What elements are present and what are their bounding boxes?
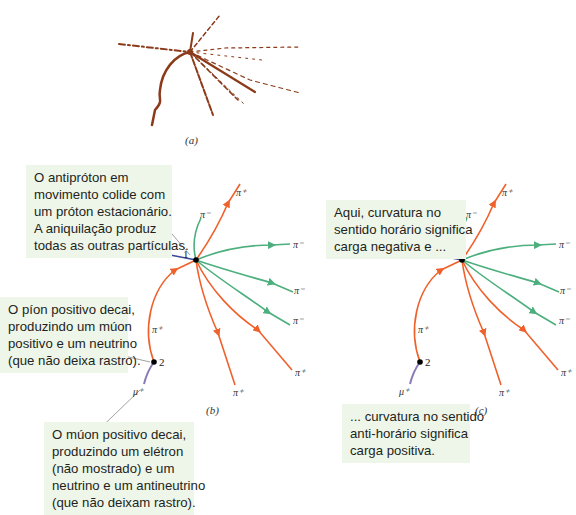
callout-annihilation: O antipróton em movimento colide com um … [26,165,172,258]
label-pi-plus: π⁺ [236,187,247,198]
caption-b: (b) [206,404,219,416]
label-pi-plus: π⁺ [233,387,244,398]
label-mu-plus: μ⁺ [132,386,144,397]
vertex-2-b: 2 [159,356,165,368]
label-pi-minus: π⁻ [560,285,571,296]
callout-pion-decay: O píon positivo decai, produzindo um múo… [0,297,128,373]
label-pi-plus: π⁺ [502,187,513,198]
label-pi-plus: π⁺ [561,367,572,378]
callout-clockwise: Aqui, curvatura no sentido horário signi… [326,200,466,259]
label-pi-minus: π⁻ [200,209,211,220]
label-pi-minus: π⁻ [293,239,304,250]
vertex-2-c: 2 [425,356,431,368]
callout-muon-decay: O múon positivo decai, produzindo um elé… [44,422,194,515]
label-pi-plus: π⁺ [418,324,429,335]
label-pi-minus: π⁻ [293,315,304,326]
label-pi-minus: π⁻ [559,239,570,250]
label-pi-minus: π⁻ [294,285,305,296]
callout-counterclockwise: ... curvatura no sentido anti-horário si… [342,404,470,463]
caption-c: (c) [475,404,487,416]
label-pi-minus: π⁻ [466,209,477,220]
label-pi-minus: π⁻ [559,315,570,326]
label-pi-plus: π⁺ [152,324,163,335]
label-mu-plus: μ⁺ [398,386,410,397]
label-pi-plus: π⁺ [295,367,306,378]
label-pi-plus: π⁺ [499,387,510,398]
